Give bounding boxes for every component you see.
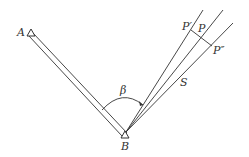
baseline-AB [29,33,127,136]
surveying-angle-diagram: A B β S P′ P P″ [0,0,249,157]
station-A-triangle-icon [27,29,35,36]
label-beta: β [119,84,126,97]
label-S: S [180,76,188,89]
station-B-triangle-icon [121,131,129,138]
label-A: A [16,26,25,39]
rays-from-B [126,10,233,132]
label-P-double-prime: P″ [212,44,225,57]
angle-beta-arc [102,98,143,110]
label-P: P [197,22,206,35]
label-B: B [120,140,129,153]
ray-P [126,10,223,132]
label-P-prime: P′ [181,20,192,33]
